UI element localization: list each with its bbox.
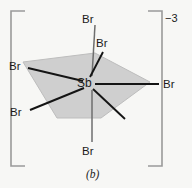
ligand-label-br-axial-top: Br: [82, 14, 94, 26]
ligand-label-br-axial-bottom: Br: [82, 146, 94, 158]
central-atom-label: Sb: [77, 77, 92, 89]
ligand-label-br-equatorial-right: Br: [163, 79, 175, 91]
bracket-left: [11, 11, 25, 166]
figure-container: BrBrBrBrBrBr Sb −3 (b): [0, 0, 192, 188]
bracket-right: [148, 11, 162, 166]
ligand-label-br-equatorial-left-lower: Br: [10, 107, 22, 119]
charge-label: −3: [165, 12, 178, 24]
figure-caption: (b): [86, 168, 99, 180]
molecular-structure-diagram: [0, 0, 192, 188]
ligand-label-br-equatorial-upper-right: Br: [96, 38, 108, 50]
ligand-label-br-equatorial-left-upper: Br: [9, 61, 21, 73]
